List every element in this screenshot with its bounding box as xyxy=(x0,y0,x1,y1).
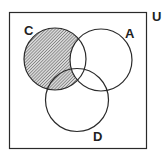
label-a: A xyxy=(125,26,135,41)
label-universe: U xyxy=(152,9,161,24)
label-d: D xyxy=(93,129,102,144)
label-c: C xyxy=(24,23,34,38)
venn-diagram: C A D U xyxy=(0,0,165,158)
